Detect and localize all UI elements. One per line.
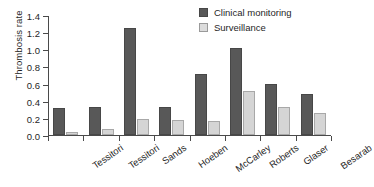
y-axis-title: Thrombosis rate: [13, 0, 24, 101]
x-tick: [260, 136, 261, 141]
bar-clinical-monitoring: [230, 48, 242, 135]
legend-swatch-icon: [199, 8, 208, 17]
x-axis-label: Sands: [160, 142, 188, 166]
y-tick-label: 0.4: [27, 96, 40, 107]
x-axis-label: Hoeben: [196, 142, 230, 170]
bar-clinical-monitoring: [53, 108, 65, 135]
bar-clinical-monitoring: [301, 94, 313, 135]
legend-item-surveillance: Surveillance: [199, 21, 292, 34]
bar-clinical-monitoring: [265, 84, 277, 135]
x-tick: [154, 136, 155, 141]
y-tick-label: 0.2: [27, 113, 40, 124]
x-tick: [119, 136, 120, 141]
y-tick-label: 1.2: [27, 28, 40, 39]
bar-clinical-monitoring: [159, 107, 171, 135]
y-tick: [43, 85, 48, 86]
y-tick: [43, 33, 48, 34]
legend-label: Clinical monitoring: [214, 7, 292, 18]
x-axis-label: Tessitori: [126, 142, 161, 171]
bar-surveillance: [243, 91, 255, 135]
bar-surveillance: [102, 129, 114, 135]
y-tick-label: 1.0: [27, 45, 40, 56]
x-tick: [83, 136, 84, 141]
legend-swatch-icon: [199, 23, 208, 32]
y-tick: [43, 16, 48, 17]
bar-clinical-monitoring: [124, 28, 136, 135]
x-axis-label: McCarley: [233, 142, 272, 174]
x-axis-label: Tessitori: [90, 142, 125, 171]
x-tick: [225, 136, 226, 141]
y-tick: [43, 119, 48, 120]
x-tick: [296, 136, 297, 141]
bar-clinical-monitoring: [195, 74, 207, 135]
x-axis-label: Roberts: [267, 142, 301, 170]
y-tick: [43, 102, 48, 103]
y-tick: [43, 50, 48, 51]
y-axis-line: [48, 16, 49, 137]
y-tick-label: 1.4: [27, 11, 40, 22]
y-tick: [43, 67, 48, 68]
legend-item-clinical-monitoring: Clinical monitoring: [199, 6, 292, 19]
bar-surveillance: [137, 119, 149, 135]
y-tick-label: 0.0: [27, 131, 40, 142]
bar-clinical-monitoring: [89, 107, 101, 135]
legend-label: Surveillance: [214, 22, 266, 33]
x-axis-label: Glaser: [301, 142, 330, 167]
bar-surveillance: [314, 113, 326, 135]
y-tick-label: 0.6: [27, 79, 40, 90]
y-tick-label: 0.8: [27, 62, 40, 73]
x-tick: [331, 136, 332, 141]
bar-surveillance: [66, 132, 78, 135]
bar-surveillance: [278, 107, 290, 135]
x-axis-label: Besarab: [338, 142, 373, 171]
bar-surveillance: [172, 120, 184, 135]
x-tick: [48, 136, 49, 141]
bar-surveillance: [208, 121, 220, 135]
x-tick: [190, 136, 191, 141]
chart-legend: Clinical monitoring Surveillance: [199, 6, 292, 36]
